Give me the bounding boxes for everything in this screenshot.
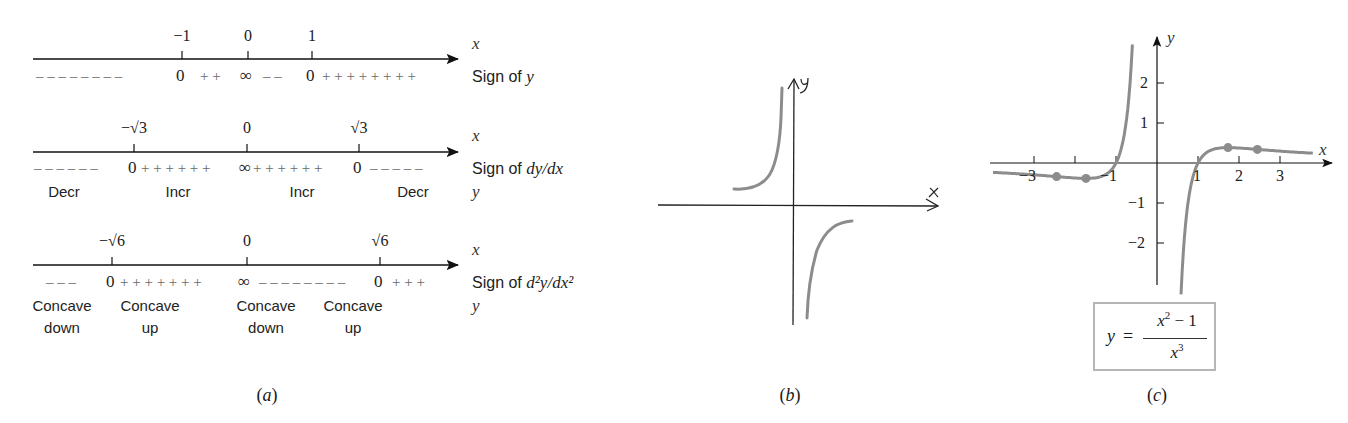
tick-label: √3 [351,119,368,137]
line2-y-var: y [472,182,480,202]
c-xtick-neg3: −3 [1019,167,1036,185]
caption-c: (c) [1147,385,1167,406]
panel-b-sketch [658,78,938,325]
line3-axis-var: x [472,240,480,260]
c-ytick-2: 2 [1140,74,1148,92]
marked-point [1052,172,1061,181]
c-xtick-3: 3 [1276,167,1284,185]
region-label: Decr [397,181,429,203]
line3-y-var: y [472,296,480,316]
caption-a: (a) [257,385,278,406]
tick-label: −√3 [121,119,147,137]
b-x-arrowhead-icon [926,199,938,211]
c-ytick-neg2: −2 [1128,234,1145,252]
sign-zero: ∞ [238,272,250,292]
c-y-axis-label: y [1167,28,1175,48]
c-ytick-neg1: −1 [1128,194,1145,212]
sign-zero: 0 [106,272,115,292]
sign-zero: ∞ [239,158,251,178]
line3-row-label: Sign of d²y/dx² [472,273,573,293]
b-right-branch [807,221,852,318]
sign-plus: + + + + + + [253,160,323,177]
marked-point [1224,143,1233,152]
c-left-branch [993,45,1132,179]
sign-minus: – – [263,68,282,85]
sign-zero: 0 [306,66,315,86]
tick-label: √6 [372,232,389,250]
b-x-axis [658,205,938,206]
sign-plus: + + [200,68,221,85]
formula-lhs: y [1107,326,1115,347]
sign-zero: 0 [128,158,137,178]
formula-denominator: x3 [1147,341,1207,363]
formula-eq: = [1123,326,1133,347]
sign-minus: – – – – – – [34,160,98,177]
region-label: Concavedown [32,295,91,339]
sign-zero: 0 [353,158,362,178]
line2-axis-var: x [472,126,480,146]
sign-plus: + + + + + + [141,160,211,177]
tick-label: −√6 [99,232,125,250]
sign-minus: – – – [46,274,76,291]
region-label: Decr [48,181,80,203]
fraction-bar [1143,338,1207,339]
tick-label: −1 [173,27,190,45]
marked-point [1253,145,1262,154]
caption-b: (b) [780,385,801,406]
b-y-axis [793,79,794,325]
tick-label: 0 [244,27,252,45]
line1-axis-var: x [472,34,480,54]
c-xtick-1: 1 [1193,167,1201,185]
sign-zero: 0 [176,66,185,86]
sign-zero: ∞ [240,66,252,86]
region-label: Concavedown [236,295,295,339]
sign-plus: + + + [392,274,425,291]
region-label: Incr [289,181,314,203]
c-xtick-neg1: −1 [1100,167,1117,185]
b-left-branch [734,88,782,189]
region-label: Concaveup [323,295,382,339]
b-x-label [929,188,938,197]
tick-label: 0 [243,232,251,250]
sign-zero: 0 [374,272,383,292]
line2-row-label: Sign of dy/dx [472,159,563,179]
sign-plus: + + + + + + + [120,274,202,291]
b-y-label [800,78,808,93]
sign-minus: – – – – – [370,160,423,177]
formula-numerator: x2 − 1 [1147,309,1207,331]
sign-minus: – – – – – – – – [36,68,122,85]
sign-minus: – – – – – – – – [259,274,345,291]
region-label: Incr [165,181,190,203]
c-x-axis-label: x [1319,140,1327,160]
c-ytick-1: 1 [1140,114,1148,132]
marked-point [1081,174,1090,183]
tick-label: 0 [243,119,251,137]
region-label: Concaveup [120,295,179,339]
formula-box: y = x2 − 1 x3 [1093,302,1216,371]
line1-row-label: Sign of y [472,67,534,87]
c-xtick-2: 2 [1235,167,1243,185]
panel-c-plot [990,37,1332,294]
sign-plus: + + + + + + + + [322,68,416,85]
tick-label: 1 [308,27,316,45]
